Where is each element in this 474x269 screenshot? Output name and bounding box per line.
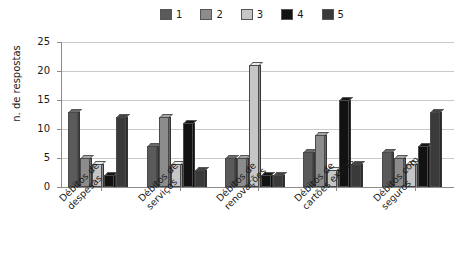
legend-swatch-3 xyxy=(241,9,253,20)
bar-4-2[interactable] xyxy=(183,42,195,187)
bar-side-face xyxy=(361,164,363,187)
legend-swatch-1 xyxy=(160,9,172,20)
y-tick-label-15: 15 xyxy=(10,95,50,105)
x-tick-mark-1 xyxy=(101,187,102,191)
bar-4-3[interactable] xyxy=(261,42,273,187)
bar-1-2[interactable] xyxy=(147,42,159,187)
bar-top-face xyxy=(431,109,444,112)
bar-front-face xyxy=(430,112,440,187)
bar-top-face xyxy=(274,172,287,175)
bar-5-5[interactable] xyxy=(430,42,442,187)
bar-5-1[interactable] xyxy=(116,42,128,187)
x-tick-mark-5 xyxy=(415,187,416,191)
bar-1-5[interactable] xyxy=(382,42,394,187)
y-tick-label-25: 25 xyxy=(10,37,50,47)
chart-legend: 12345 xyxy=(160,9,344,20)
legend-label-4: 4 xyxy=(297,9,303,20)
legend-label-5: 5 xyxy=(338,9,344,20)
legend-swatch-4 xyxy=(281,9,293,20)
bar-side-face xyxy=(126,117,128,187)
bar-front-face xyxy=(116,117,126,187)
y-tick-label-5: 5 xyxy=(10,153,50,163)
legend-swatch-5 xyxy=(322,9,334,20)
legend-label-3: 3 xyxy=(257,9,263,20)
legend-item-4[interactable]: 4 xyxy=(281,9,303,20)
x-tick-mark-2 xyxy=(180,187,181,191)
bar-1-3[interactable] xyxy=(225,42,237,187)
legend-label-2: 2 xyxy=(216,9,222,20)
bar-group-2 xyxy=(147,42,213,187)
bar-top-face xyxy=(196,167,209,170)
x-tick-mark-3 xyxy=(258,187,259,191)
bar-front-face xyxy=(351,164,361,187)
bar-front-face xyxy=(195,170,205,187)
bar-side-face xyxy=(440,112,442,187)
legend-label-1: 1 xyxy=(176,9,182,20)
bar-4-1[interactable] xyxy=(104,42,116,187)
legend-item-3[interactable]: 3 xyxy=(241,9,263,20)
bar-5-2[interactable] xyxy=(195,42,207,187)
bar-5-3[interactable] xyxy=(273,42,285,187)
bar-top-face xyxy=(117,114,130,117)
legend-swatch-2 xyxy=(200,9,212,20)
bar-chart: 12345 n. de respostas 0510152025 Débitos… xyxy=(0,0,474,269)
x-tick-mark-4 xyxy=(336,187,337,191)
y-tick-label-0: 0 xyxy=(10,182,50,192)
bar-side-face xyxy=(283,175,285,187)
bar-1-1[interactable] xyxy=(68,42,80,187)
legend-item-2[interactable]: 2 xyxy=(200,9,222,20)
bar-group-1 xyxy=(68,42,134,187)
legend-item-5[interactable]: 5 xyxy=(322,9,344,20)
y-tick-label-20: 20 xyxy=(10,66,50,76)
bar-side-face xyxy=(205,170,207,187)
y-tick-label-10: 10 xyxy=(10,124,50,134)
bar-front-face xyxy=(273,175,283,187)
bar-1-4[interactable] xyxy=(303,42,315,187)
legend-item-1[interactable]: 1 xyxy=(160,9,182,20)
y-tick-mark-0 xyxy=(57,187,62,188)
